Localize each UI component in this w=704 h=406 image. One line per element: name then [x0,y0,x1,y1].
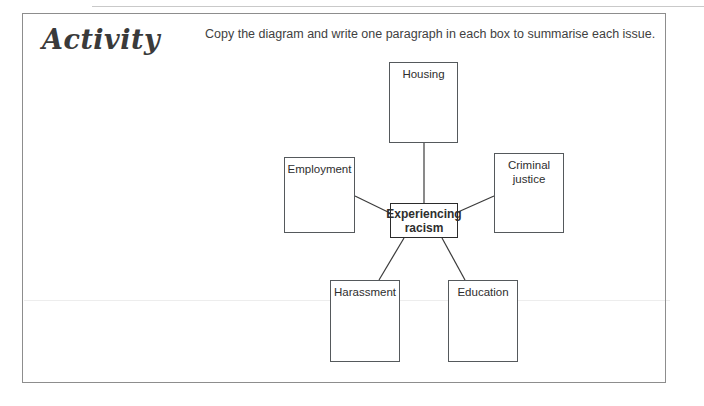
node-harassment[interactable]: Harassment [330,280,400,362]
node-criminal-justice[interactable]: Criminal justice [494,153,564,233]
racism-issues-diagram: Housing Employment Criminal justice Hara… [0,0,704,406]
node-employment-label: Employment [285,158,354,177]
center-label-line1: Experiencing [386,207,461,221]
node-education-label: Education [449,281,517,300]
connector-harassment [379,238,404,280]
node-experiencing-racism-label: Experiencingracism [386,207,461,235]
node-housing-label: Housing [390,63,457,82]
node-criminal-justice-label-line2: justice [495,173,563,187]
node-housing[interactable]: Housing [389,62,458,143]
connector-education [442,238,465,280]
node-employment[interactable]: Employment [284,157,355,233]
center-label-line2: racism [405,221,444,235]
connector-employment [355,196,390,213]
node-experiencing-racism[interactable]: Experiencingracism [390,203,458,238]
connector-criminal-justice [458,196,494,212]
node-education[interactable]: Education [448,280,518,362]
node-harassment-label: Harassment [331,281,399,300]
activity-page: Activity Copy the diagram and write one … [0,0,704,406]
node-criminal-justice-label-line1: Criminal [495,154,563,173]
